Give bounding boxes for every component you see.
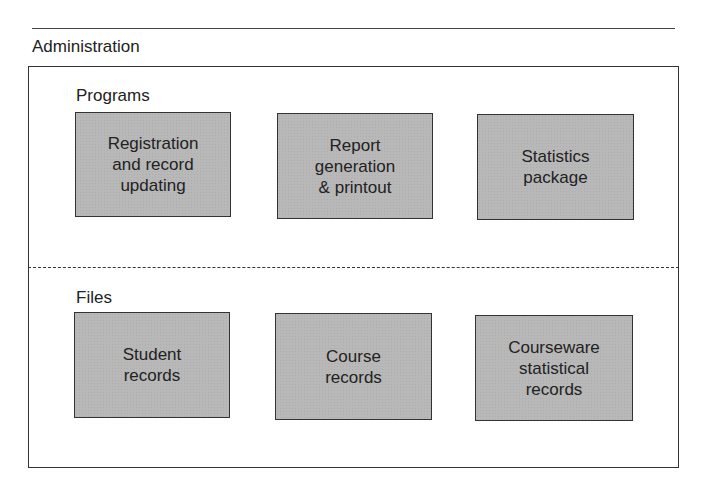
program-box-registration: Registration and record updating bbox=[75, 112, 231, 217]
program-box-report-generation: Report generation & printout bbox=[277, 113, 433, 219]
files-label: Files bbox=[76, 288, 112, 308]
section-divider bbox=[28, 267, 679, 268]
file-box-courseware-statistical-records: Courseware statistical records bbox=[475, 315, 633, 421]
programs-label: Programs bbox=[76, 86, 150, 106]
file-box-course-records: Course records bbox=[275, 313, 432, 420]
header-rule bbox=[32, 28, 675, 29]
file-box-student-records: Student records bbox=[74, 312, 230, 418]
diagram-title: Administration bbox=[32, 37, 140, 57]
program-box-statistics-package: Statistics package bbox=[477, 114, 634, 220]
